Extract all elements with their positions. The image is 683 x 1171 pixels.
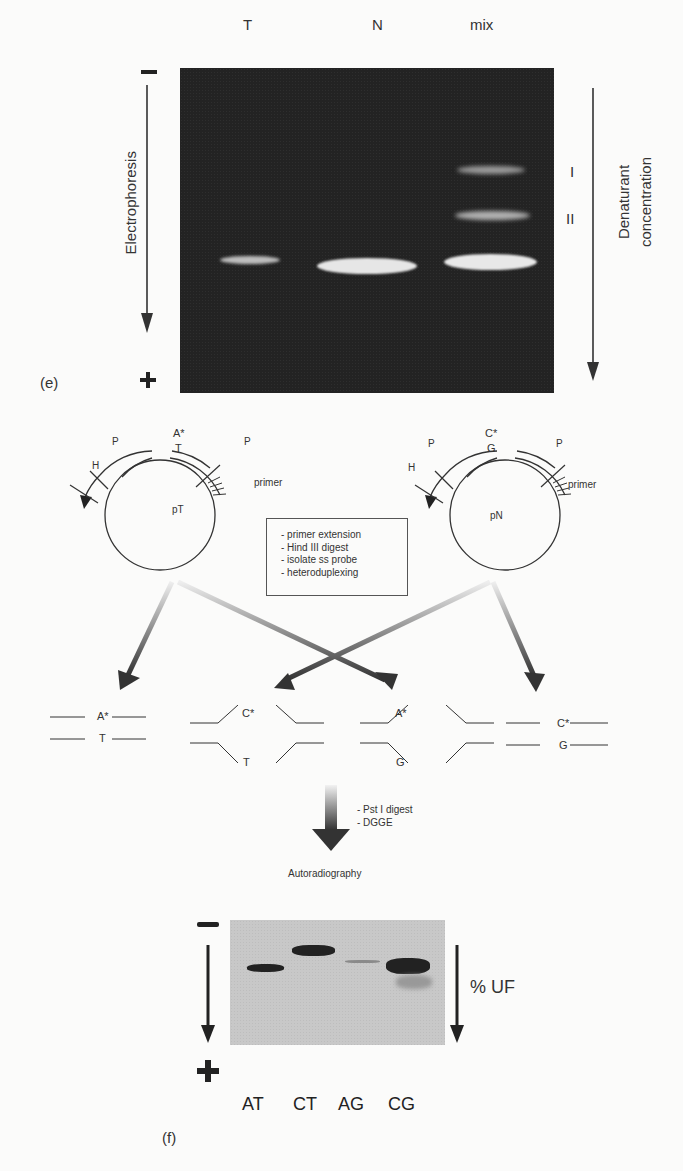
band-t (220, 256, 280, 264)
pn-site-p-left: P (428, 438, 435, 449)
duplex-3-bottom: G (396, 756, 405, 768)
pt-site-p-right: P (244, 436, 251, 447)
pn-site-p-right: P (556, 438, 563, 449)
uf-arrow-icon (449, 945, 465, 1045)
band-cg-smear (396, 975, 432, 989)
gel-image-e (180, 68, 554, 393)
pt-name: pT (172, 504, 184, 515)
plasmid-pt-diagram (60, 425, 260, 585)
lane-label-t: T (243, 16, 252, 33)
lane-label-ct: CT (293, 1094, 317, 1115)
duplex-3-top: A* (395, 707, 407, 719)
pt-bottom-base: T (175, 442, 182, 454)
lane-label-at: AT (242, 1094, 264, 1115)
pt-top-base: A* (173, 427, 185, 439)
lane-label-ag: AG (338, 1094, 364, 1115)
electrophoresis-arrow-f-icon (200, 945, 216, 1045)
pt-site-p-left: P (112, 436, 119, 447)
pt-primer-label: primer (254, 477, 282, 488)
pn-bottom-base: G (487, 442, 496, 454)
panel-label-f: (f) (162, 1129, 176, 1146)
duplex-diagrams (40, 705, 640, 785)
minus-sign-e (141, 70, 157, 74)
lane-label-cg: CG (388, 1094, 415, 1115)
lane-label-n: N (372, 16, 383, 33)
electrophoresis-arrow-icon (135, 85, 159, 335)
process-step-pst: - Pst I digest (357, 804, 413, 815)
denaturant-label-line1: Denaturant (613, 152, 635, 252)
process-down-arrow-icon (310, 785, 354, 855)
band-n (317, 258, 417, 274)
band-ag (345, 960, 380, 963)
pn-top-base: C* (485, 427, 497, 439)
duplex-1-top: A* (97, 710, 109, 722)
gel-image-f (230, 920, 445, 1045)
step-item: - heteroduplexing (267, 567, 407, 580)
plus-sign-f (197, 1060, 219, 1082)
band-mix-i (457, 166, 525, 174)
crossing-arrows-icon (0, 580, 683, 700)
process-step-dgge: - DGGE (357, 817, 393, 828)
band-mix-homoduplex (444, 254, 537, 270)
band-label-i: I (570, 163, 574, 180)
duplex-2-bottom: T (243, 756, 250, 768)
step-item: - isolate ss probe (267, 554, 407, 567)
pn-primer-label: primer (568, 479, 596, 490)
plus-sign-e (140, 372, 156, 388)
pt-site-h: H (92, 460, 99, 471)
band-mix-ii (455, 211, 530, 220)
step-item: - primer extension (267, 529, 407, 542)
step-item: - Hind III digest (267, 542, 407, 555)
plasmid-pn-diagram (405, 425, 605, 585)
duplex-4-bottom: G (559, 739, 568, 751)
uf-label: % UF (470, 977, 515, 998)
band-at (247, 964, 284, 972)
pn-site-h: H (408, 462, 415, 473)
duplex-1-bottom: T (99, 732, 106, 744)
lane-label-mix: mix (470, 16, 493, 33)
denaturant-arrow-icon (583, 88, 603, 383)
band-ct (292, 945, 335, 956)
denaturant-label-line2: concentration (635, 152, 657, 252)
duplex-2-top: C* (242, 707, 254, 719)
panel-label-e: (e) (40, 374, 58, 391)
band-label-ii: II (566, 210, 574, 227)
denaturant-label: Denaturant concentration (613, 152, 657, 252)
duplex-4-top: C* (557, 717, 569, 729)
autoradiography-label: Autoradiography (288, 868, 361, 879)
minus-sign-f (197, 922, 219, 927)
band-cg (386, 958, 430, 974)
electrophoresis-label: Electrophoresis (122, 155, 139, 255)
pn-name: pN (490, 510, 503, 521)
